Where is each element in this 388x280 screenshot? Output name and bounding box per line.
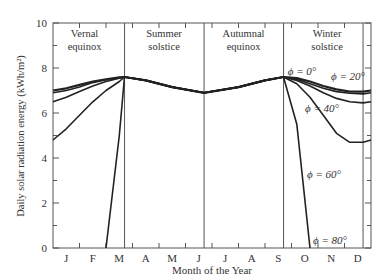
season-label: Autumnal [223,28,265,39]
x-tick-label: D [354,252,362,264]
y-tick-label: 0 [42,242,48,254]
x-tick-label: A [248,252,256,264]
y-tick-label: 6 [42,107,48,119]
x-tick-label: J [197,252,202,264]
plot-frame [53,23,371,248]
plot-axes: 0246810JFMAMJJASOND [36,17,371,264]
curve-label-2: ϕ = 40° [305,102,340,114]
season-label: Summer [146,28,182,39]
season-label: Vernal [71,28,98,39]
y-axis-label: Daily solar radiation energy (kWh/m²) [15,55,27,217]
curve-label-3: ϕ = 60° [307,168,342,180]
season-label: equinox [68,41,103,52]
curve-label-4: ϕ = 80° [313,234,348,246]
y-tick-label: 8 [42,62,48,74]
x-tick-label: M [167,252,177,264]
season-markers: VernalequinoxSummersolsticeAutumnalequin… [68,23,363,248]
curve-label-1: ϕ = 20° [331,70,366,82]
season-label: equinox [227,41,262,52]
y-tick-label: 10 [36,17,48,29]
x-tick-label: N [327,252,335,264]
x-tick-label: F [90,252,96,264]
curve-0 [53,77,371,93]
x-tick-label: M [114,252,124,264]
x-tick-label: J [223,252,228,264]
season-label: solstice [311,41,343,52]
x-tick-label: A [142,252,150,264]
y-tick-label: 2 [42,197,48,209]
season-label: solstice [148,41,180,52]
y-tick-label: 4 [42,152,48,164]
season-label: Winter [313,28,342,39]
x-tick-label: O [301,252,309,264]
x-tick-label: J [64,252,69,264]
x-axis-label: Month of the Year [172,264,252,276]
solar-radiation-chart: 0246810JFMAMJJASOND VernalequinoxSummers… [0,0,388,280]
curve-4 [106,77,310,248]
x-tick-label: S [275,252,281,264]
curve-label-0: ϕ = 0° [288,65,317,77]
